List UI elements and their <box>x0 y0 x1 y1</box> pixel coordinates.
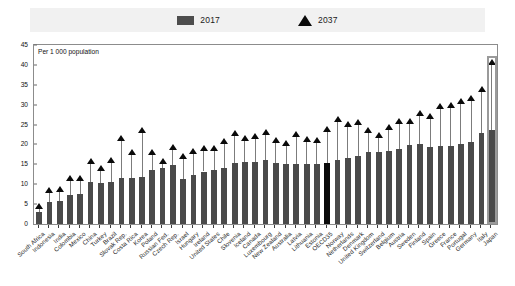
chart-bar <box>149 170 155 224</box>
y-axis-tick-label: 35 <box>21 80 28 87</box>
triangle-marker <box>385 124 393 130</box>
marker-stem <box>460 101 461 145</box>
triangle-marker <box>426 113 434 119</box>
marker-stem <box>419 113 420 144</box>
bar-swatch-icon <box>177 16 194 25</box>
triangle-marker <box>292 131 300 137</box>
y-axis-tick-mark <box>34 45 37 46</box>
marker-stem <box>214 148 215 170</box>
triangle-marker <box>416 110 424 116</box>
y-axis-tick-mark <box>34 124 37 125</box>
chart-bar <box>129 178 135 224</box>
chart-bar <box>293 164 299 224</box>
chart-bar <box>263 160 269 224</box>
chart-bar <box>221 168 227 224</box>
chart-bar <box>160 168 166 224</box>
triangle-marker <box>66 175 74 181</box>
triangle-marker <box>313 137 321 143</box>
y-axis: 051015202530354045 <box>0 44 33 225</box>
triangle-marker <box>251 133 259 139</box>
chart-bar <box>366 152 372 224</box>
chart-bar <box>479 133 485 224</box>
marker-stem <box>265 132 266 161</box>
legend-item-2037: 2037 <box>298 15 338 26</box>
marker-stem <box>306 139 307 163</box>
marker-stem <box>121 138 122 178</box>
y-axis-tick-mark <box>34 164 37 165</box>
triangle-marker <box>87 158 95 164</box>
chart-bar <box>427 147 433 224</box>
chart-bar <box>335 160 341 224</box>
axis-note: Per 1 000 population <box>38 48 99 55</box>
triangle-marker <box>334 116 342 122</box>
legend-label-2017: 2017 <box>200 15 220 25</box>
triangle-marker <box>395 118 403 124</box>
chart-bar <box>191 175 197 224</box>
triangle-marker <box>210 145 218 151</box>
chart-bar <box>448 146 454 224</box>
marker-stem <box>224 141 225 168</box>
marker-stem <box>90 161 91 182</box>
y-axis-tick-label: 30 <box>21 100 28 107</box>
triangle-marker <box>159 158 167 164</box>
triangle-marker-icon <box>298 15 312 26</box>
chart-bar <box>304 164 310 224</box>
marker-stem <box>388 127 389 151</box>
marker-stem <box>399 121 400 149</box>
y-axis-tick-mark <box>34 144 37 145</box>
triangle-marker <box>344 121 352 127</box>
chart-bar <box>417 144 423 224</box>
triangle-marker <box>323 126 331 132</box>
triangle-marker <box>406 118 414 124</box>
triangle-marker <box>303 136 311 142</box>
triangle-marker <box>478 86 486 92</box>
triangle-marker <box>189 148 197 154</box>
legend-label-2037: 2037 <box>318 15 338 25</box>
marker-stem <box>368 130 369 152</box>
x-axis-labels: South AfricaIndonesiaIndiaColombiaMexico… <box>0 228 515 286</box>
chart-bar <box>242 162 248 224</box>
y-axis-tick-label: 5 <box>24 200 28 207</box>
y-axis-tick-mark <box>34 184 37 185</box>
highlight-box <box>487 56 498 224</box>
chart-bar <box>201 172 207 225</box>
marker-stem <box>347 124 348 158</box>
marker-stem <box>471 98 472 143</box>
triangle-marker <box>364 127 372 133</box>
marker-stem <box>409 121 410 146</box>
marker-stem <box>234 133 235 164</box>
chart-bar <box>273 163 279 224</box>
triangle-marker <box>200 145 208 151</box>
chart-bar <box>180 179 186 224</box>
chart-bar <box>88 182 94 224</box>
y-axis-tick-mark <box>34 64 37 65</box>
marker-stem <box>327 129 328 163</box>
chart-legend: 2017 2037 <box>30 8 485 32</box>
marker-stem <box>131 152 132 178</box>
chart-bar <box>355 156 361 224</box>
marker-stem <box>255 136 256 161</box>
marker-stem <box>286 143 287 164</box>
plot-inner: Per 1 000 population <box>34 45 497 224</box>
triangle-marker <box>231 130 239 136</box>
y-axis-tick-mark <box>34 84 37 85</box>
y-axis-tick-label: 45 <box>21 41 28 48</box>
legend-item-2017: 2017 <box>177 15 220 25</box>
triangle-marker <box>138 127 146 133</box>
chart-bar <box>232 163 238 224</box>
chart-bar <box>283 164 289 224</box>
chart-bar <box>324 163 330 224</box>
chart-bar <box>314 164 320 224</box>
triangle-marker <box>272 137 280 143</box>
chart-bar <box>36 212 42 224</box>
triangle-marker <box>354 119 362 125</box>
triangle-marker <box>436 103 444 109</box>
chart-bar <box>458 144 464 224</box>
marker-stem <box>358 122 359 156</box>
chart-bar <box>468 142 474 224</box>
marker-stem <box>183 156 184 179</box>
triangle-marker <box>220 138 228 144</box>
y-axis-tick-label: 10 <box>21 180 28 187</box>
marker-stem <box>111 160 112 181</box>
marker-stem <box>440 106 441 146</box>
